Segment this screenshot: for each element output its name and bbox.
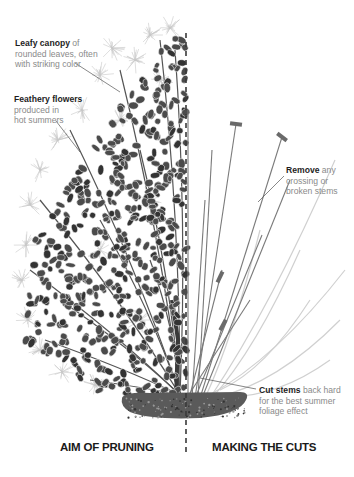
callout-bold-text: Leafy canopy [15, 38, 70, 48]
callout-text-line: of [70, 38, 80, 48]
callout-text-line: crossing or [286, 176, 328, 186]
cut-stems [188, 110, 290, 398]
cut-marker-icon [216, 271, 225, 284]
title-making-the-cuts: MAKING THE CUTS [212, 441, 316, 453]
callout-text-line: any [319, 165, 335, 175]
pruning-diagram: Leafy canopy ofrounded leaves, oftenwith… [0, 0, 354, 477]
callout-bold-text: Feathery flowers [14, 94, 82, 104]
callout-cut-stems: Cut stems back hardfor the best summerfo… [259, 385, 341, 417]
callout-feathery-flowers: Feathery flowersproduced inhot summers [14, 94, 82, 126]
callout-leafy-canopy: Leafy canopy ofrounded leaves, oftenwith… [15, 38, 98, 70]
cut-marker-icon [276, 132, 288, 143]
callout-bold-text: Cut stems [259, 385, 301, 395]
callout-text-line: rounded leaves, often [15, 49, 98, 59]
soil-mound [122, 392, 247, 419]
callout-text-line: foliage effect [259, 406, 308, 416]
leafy-canopy [21, 35, 192, 399]
callout-text-line: broken stems [286, 186, 338, 196]
callout-text-line: for the best summer [259, 396, 335, 406]
cut-marker-icon [230, 121, 242, 127]
title-aim-of-pruning: AIM OF PRUNING [60, 441, 154, 453]
callout-text-line: produced in [14, 105, 59, 115]
callout-remove-stems: Remove anycrossing orbroken stems [286, 165, 338, 197]
callout-text-line: with striking color [15, 59, 81, 69]
callout-text-line: hot summers [14, 115, 64, 125]
callout-text-line: back hard [301, 385, 341, 395]
callout-bold-text: Remove [286, 165, 319, 175]
